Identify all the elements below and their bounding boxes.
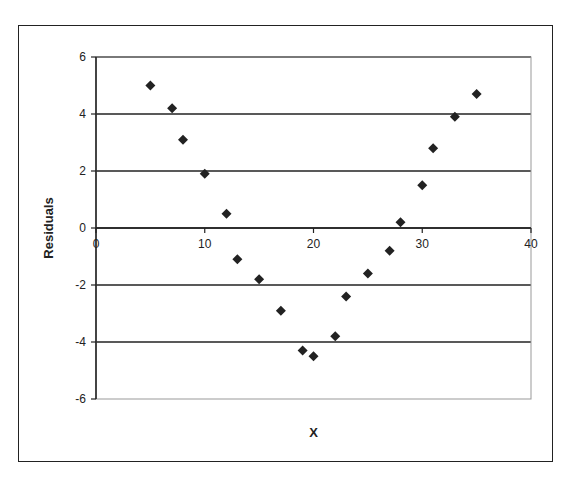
diamond-marker [428,143,438,153]
y-tick-label: 0 [79,221,86,235]
x-axis: 010203040 [93,228,538,251]
gridlines [96,57,531,342]
y-tick-label: -4 [75,335,86,349]
y-tick-label: -6 [75,392,86,406]
y-axis: -6-4-20246 [75,50,96,406]
diamond-marker [254,274,264,284]
y-tick-label: 2 [79,164,86,178]
diamond-marker [222,209,232,219]
x-axis-title: X [309,425,318,440]
x-tick-label: 0 [93,237,100,251]
diamond-marker [276,306,286,316]
x-tick-label: 40 [524,237,538,251]
diamond-marker [298,346,308,356]
y-axis-title: Residuals [41,197,56,258]
y-tick-label: -2 [75,278,86,292]
diamond-marker [363,269,373,279]
data-points [145,81,481,362]
x-tick-label: 10 [198,237,212,251]
diamond-marker [396,217,406,227]
diamond-marker [167,103,177,113]
x-tick-label: 20 [307,237,321,251]
diamond-marker [145,81,155,91]
x-tick-label: 30 [416,237,430,251]
diamond-marker [330,331,340,341]
diamond-marker [417,180,427,190]
diamond-marker [178,135,188,145]
diamond-marker [309,351,319,361]
y-tick-label: 4 [79,107,86,121]
diamond-marker [385,246,395,256]
residual-scatter-chart: -6-4-20246 010203040 X Residuals [0,0,568,479]
diamond-marker [341,291,351,301]
diamond-marker [472,89,482,99]
y-tick-label: 6 [79,50,86,64]
diamond-marker [232,254,242,264]
